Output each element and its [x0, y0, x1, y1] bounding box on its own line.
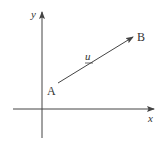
point-a-label: A [47, 84, 56, 98]
vector-diagram: y x A B u [0, 0, 157, 149]
y-axis-label: y [30, 8, 36, 20]
point-b-label: B [137, 30, 145, 44]
vector-u-arrow [58, 37, 133, 83]
vector-u-label: u [85, 50, 91, 62]
x-axis-label: x [147, 112, 153, 124]
